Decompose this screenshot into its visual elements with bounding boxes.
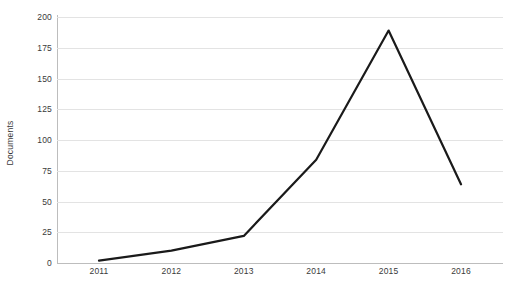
x-tick-label-2011: 2011 <box>89 266 108 276</box>
plot-area <box>57 17 503 263</box>
line-chart: Documents 0255075100125150175200 2011201… <box>0 0 512 285</box>
y-tick-label-50: 50 <box>6 197 52 207</box>
x-tick-label-2013: 2013 <box>234 266 254 276</box>
series-path-documents <box>99 31 461 261</box>
y-axis-tick-labels: 0255075100125150175200 <box>0 17 52 263</box>
x-axis-tick-labels: 201120122013201420152016 <box>57 266 503 284</box>
y-tick-label-100: 100 <box>6 135 52 145</box>
y-tick-label-75: 75 <box>6 166 52 176</box>
x-tick-label-2015: 2015 <box>379 266 399 276</box>
x-tick-label-2016: 2016 <box>451 266 471 276</box>
y-tick-label-125: 125 <box>6 104 52 114</box>
x-tick-label-2014: 2014 <box>306 266 326 276</box>
y-tick-label-150: 150 <box>6 74 52 84</box>
x-axis-line <box>57 263 503 264</box>
x-tick-label-2012: 2012 <box>162 266 182 276</box>
y-tick-label-175: 175 <box>6 43 52 53</box>
y-tick-label-25: 25 <box>6 227 52 237</box>
y-tick-label-0: 0 <box>6 258 52 268</box>
series-line-documents <box>57 17 503 263</box>
y-tick-label-200: 200 <box>6 12 52 22</box>
